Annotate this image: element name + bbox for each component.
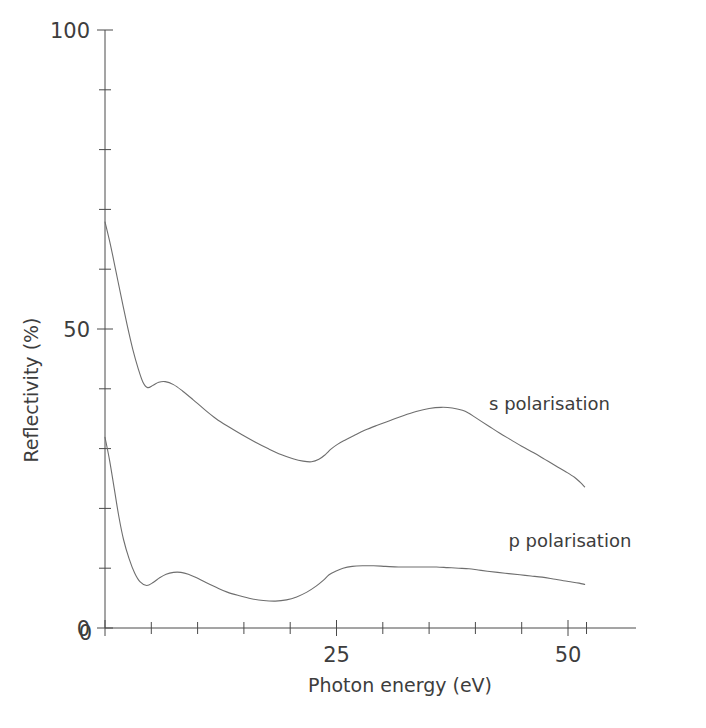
x-axis-title: Photon energy (eV) [308, 674, 492, 696]
x-tick-label: 25 [323, 643, 350, 667]
curve-p-polarisation [105, 437, 585, 601]
x-tick-label: 50 [555, 643, 582, 667]
series-label-p-polarisation: p polarisation [508, 530, 631, 551]
reflectivity-chart: 100500 02550 s polarisationp polarisatio… [0, 0, 706, 728]
x-tick-label: 0 [79, 621, 92, 645]
y-tick-label: 50 [63, 318, 90, 342]
y-axis-title: Reflectivity (%) [20, 317, 42, 462]
series-label-s-polarisation: s polarisation [489, 393, 610, 414]
y-tick-label: 100 [50, 19, 90, 43]
series-labels: s polarisationp polarisation [489, 393, 631, 551]
curve-s-polarisation [105, 222, 585, 487]
y-axis-tick-labels: 100500 [50, 19, 90, 641]
figure-container: 100500 02550 s polarisationp polarisatio… [0, 0, 706, 728]
